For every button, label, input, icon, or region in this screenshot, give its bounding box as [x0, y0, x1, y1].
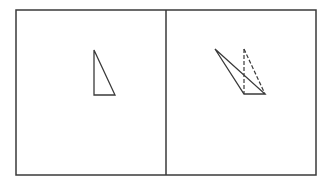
right-panel: [215, 49, 265, 94]
triangle-transformed: [215, 49, 265, 94]
left-panel: [94, 50, 115, 95]
dashed-edge-hypotenuse: [244, 49, 265, 94]
right-triangle-original: [94, 50, 115, 95]
diagram-canvas: [0, 0, 331, 186]
